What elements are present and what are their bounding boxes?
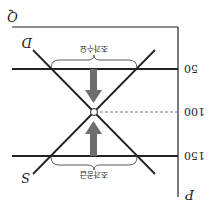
price-axis-label: P xyxy=(185,187,195,202)
price-label-100: 100 xyxy=(184,105,205,118)
excess-supply-label: 초과공급 xyxy=(80,170,108,179)
price-label-50: 50 xyxy=(184,62,198,75)
price-label-150: 150 xyxy=(184,149,205,162)
excess-demand-label: 초과수요 xyxy=(80,44,108,53)
demand-label: D xyxy=(21,35,33,50)
equilibrium-point xyxy=(91,109,98,116)
arrow-down-icon xyxy=(85,121,102,156)
supply-demand-diagram: P Q 150 100 50 D S 초과공급 초과수요 xyxy=(0,0,214,210)
quantity-axis-label: Q xyxy=(7,9,18,24)
excess-demand-brace xyxy=(51,55,137,68)
excess-supply-brace xyxy=(51,157,137,170)
supply-label: S xyxy=(21,170,30,185)
arrow-up-icon xyxy=(85,69,102,103)
